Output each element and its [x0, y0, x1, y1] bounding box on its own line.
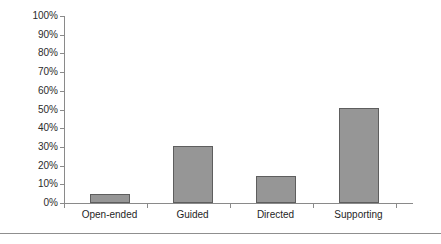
bar-open-ended — [90, 194, 130, 203]
y-tick-mark — [60, 16, 65, 17]
y-tick-mark — [60, 72, 65, 73]
plot-area: 100%90%80%70%60%50%40%30%20%10%0% — [64, 16, 412, 203]
y-tick-label: 10% — [38, 179, 58, 189]
y-tick-mark — [60, 91, 65, 92]
y-tick-label: 0% — [44, 198, 58, 208]
y-tick-label: 30% — [38, 142, 58, 152]
bottom-divider — [0, 233, 441, 234]
x-axis-label-directed: Directed — [257, 210, 294, 220]
y-tick-mark — [60, 35, 65, 36]
y-tick-mark — [60, 184, 65, 185]
x-tick-mark — [230, 203, 231, 208]
x-tick-mark — [313, 203, 314, 208]
y-tick-mark — [60, 166, 65, 167]
y-tick-label: 90% — [38, 30, 58, 40]
y-tick-label: 80% — [38, 48, 58, 58]
bar-supporting — [339, 108, 379, 203]
bar-chart-figure: 100%90%80%70%60%50%40%30%20%10%0% Open-e… — [0, 0, 441, 244]
y-tick-label: 100% — [32, 11, 58, 21]
bar-guided — [173, 146, 213, 203]
bar-directed — [256, 176, 296, 203]
x-tick-mark — [396, 203, 397, 208]
y-tick-label: 40% — [38, 123, 58, 133]
y-tick-mark — [60, 147, 65, 148]
y-tick-label: 50% — [38, 105, 58, 115]
y-tick-label: 20% — [38, 161, 58, 171]
x-tick-mark — [147, 203, 148, 208]
y-tick-mark — [60, 128, 65, 129]
y-tick-mark — [60, 53, 65, 54]
x-axis-line — [64, 203, 413, 204]
x-axis-label-guided: Guided — [176, 210, 208, 220]
y-tick-mark — [60, 110, 65, 111]
x-axis-label-open-ended: Open-ended — [82, 210, 138, 220]
y-tick-label: 70% — [38, 67, 58, 77]
x-axis-label-supporting: Supporting — [334, 210, 382, 220]
x-tick-mark — [64, 203, 65, 208]
y-tick-label: 60% — [38, 86, 58, 96]
